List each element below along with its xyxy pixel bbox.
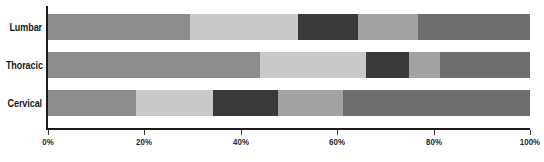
x-axis-tick-label: 0% — [42, 137, 53, 147]
x-axis-tick-mark — [530, 130, 531, 135]
x-axis-tick-label: 80% — [426, 137, 442, 147]
bar-segment — [213, 90, 278, 116]
bar-segment — [278, 90, 343, 116]
bar-segment — [409, 52, 440, 78]
x-axis-tick-mark — [337, 130, 338, 135]
bar-segment — [48, 14, 190, 40]
x-axis-tick-label: 100% — [520, 137, 540, 147]
bar-segment — [366, 52, 409, 78]
bar-segment — [358, 14, 418, 40]
x-axis-tick-label: 40% — [233, 137, 249, 147]
y-axis-category-labels: Lumbar Thoracic Cervical — [0, 6, 42, 128]
bar-segment — [418, 14, 530, 40]
bar-row — [48, 52, 530, 78]
category-label-thoracic: Thoracic — [6, 59, 42, 71]
bar-segment — [260, 52, 366, 78]
x-axis-tick-mark — [434, 130, 435, 135]
x-axis-line — [46, 128, 530, 130]
bar-segment — [136, 90, 213, 116]
stacked-bar-chart: Lumbar Thoracic Cervical 0%20%40%60%80%1… — [0, 0, 544, 162]
bar-segment — [343, 90, 530, 116]
x-axis-tick-mark — [144, 130, 145, 135]
x-axis-tick-mark — [241, 130, 242, 135]
category-label-lumbar: Lumbar — [6, 21, 42, 33]
bar-segment — [298, 14, 358, 40]
bar-segment — [190, 14, 298, 40]
bar-segment — [440, 52, 530, 78]
bar-segment — [48, 52, 260, 78]
category-label-cervical: Cervical — [6, 97, 42, 109]
bar-row — [48, 14, 530, 40]
bar-row — [48, 90, 530, 116]
x-axis-tick-label: 60% — [329, 137, 345, 147]
x-axis-tick-mark — [48, 130, 49, 135]
plot-area — [48, 6, 530, 128]
x-axis-tick-label: 20% — [136, 137, 152, 147]
bar-segment — [48, 90, 136, 116]
